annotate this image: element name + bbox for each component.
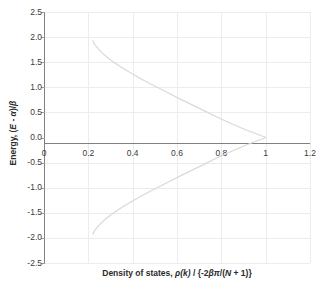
x-axis-title-divider: / {-2 [191,268,209,278]
x-axis-title-plusone: + 1)} [231,268,252,278]
series-curve-layer [0,0,320,287]
x-axis-title: Density of states, ρ(k) / {-2βπ/(N + 1)} [44,268,310,278]
x-axis-title-ofk: (k) [180,268,190,278]
chart-container: Energy, (E - α)/β 00.20.40.60.811.22.52.… [0,0,320,287]
density-of-states-curve [93,41,266,235]
x-axis-title-prefix: Density of states, [102,268,175,278]
